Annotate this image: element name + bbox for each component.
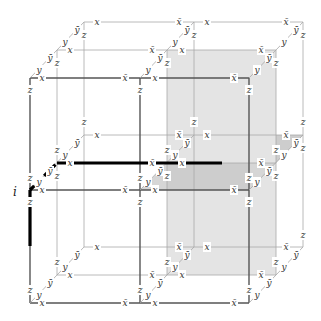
vertex-label-y: ȳ: [73, 250, 80, 260]
vertex-label-x: x: [204, 17, 209, 27]
vertex-label-x: x̄: [258, 158, 263, 168]
vertex-label-z: z: [273, 257, 279, 267]
vertex-label-z: z: [191, 30, 197, 40]
vertex-label-z: z: [27, 285, 33, 295]
vertex-label-z: z: [137, 85, 143, 95]
vertex-label-z: z: [54, 171, 60, 181]
vertex-label-y: y: [253, 177, 260, 187]
cube-lattice-svg: xx̄xx̄xx̄xx̄xx̄xx̄xx̄xx̄xx̄xx̄xx̄xx̄xx̄x…: [0, 0, 321, 321]
vertex-label-x: x̄: [283, 130, 288, 140]
vertex-label-x: x: [179, 270, 184, 280]
vertex-label-x: x̄: [258, 270, 263, 280]
vertex-label-x: x̄: [122, 73, 127, 83]
vertex-label-z: z: [300, 117, 306, 127]
vertex-label-x: x: [152, 73, 157, 83]
vertex-label-x: x̄: [231, 298, 236, 308]
vertex-label-y: ȳ: [73, 25, 80, 35]
vertex-label-z: z: [81, 117, 87, 127]
vertex-label-y: y: [280, 37, 287, 47]
vertex-label-x: x: [94, 130, 99, 140]
vertex-label-z: z: [164, 58, 170, 68]
vertex-label-z: z: [54, 145, 60, 155]
vertex-label-x: x̄: [283, 242, 288, 252]
vertex-label-z: z: [273, 171, 279, 181]
vertex-label-z: z: [246, 285, 252, 295]
vertex-label-x: x̄: [258, 45, 263, 55]
vertex-label-y: y: [35, 177, 42, 187]
vertex-label-y: y: [280, 262, 287, 272]
vertex-label-x: x̄: [283, 17, 288, 27]
vertex-label-y: ȳ: [46, 53, 53, 63]
vertex-label-z: z: [54, 58, 60, 68]
vertex-label-z: z: [273, 58, 279, 68]
lattice-diagram: xx̄xx̄xx̄xx̄xx̄xx̄xx̄xx̄xx̄xx̄xx̄xx̄xx̄x…: [0, 0, 321, 321]
vertex-label-z: z: [27, 85, 33, 95]
vertex-label-y: ȳ: [156, 53, 163, 63]
vertex-label-x: x̄: [149, 45, 154, 55]
i-label: i: [13, 185, 17, 199]
vertex-label-x: x̄: [231, 185, 236, 195]
vertex-label-y: y: [61, 262, 68, 272]
vertex-label-z: z: [164, 145, 170, 155]
vertex-label-y: y: [61, 37, 68, 47]
vertex-label-y: ȳ: [265, 278, 272, 288]
vertex-label-x: x: [204, 242, 209, 252]
vertex-label-x: x: [179, 45, 184, 55]
vertex-label-y: ȳ: [292, 25, 299, 35]
vertex-label-x: x̄: [149, 270, 154, 280]
vertex-label-y: ȳ: [46, 166, 53, 176]
vertex-label-y: y: [144, 177, 151, 187]
vertex-label-y: ȳ: [156, 166, 163, 176]
vertex-label-z: z: [81, 30, 87, 40]
vertex-label-y: y: [35, 65, 42, 75]
vertex-label-x: x̄: [176, 130, 181, 140]
vertex-label-z: z: [273, 145, 279, 155]
vertex-label-z: z: [137, 197, 143, 207]
vertex-label-y: y: [280, 150, 287, 160]
vertex-label-z: z: [300, 230, 306, 240]
vertex-label-x: x: [94, 242, 99, 252]
vertex-label-y: ȳ: [292, 138, 299, 148]
vertex-label-y: y: [61, 150, 68, 160]
vertex-label-y: ȳ: [156, 278, 163, 288]
vertex-label-y: y: [253, 65, 260, 75]
vertex-label-y: ȳ: [183, 138, 190, 148]
vertex-label-y: y: [171, 150, 178, 160]
vertex-label-x: x: [152, 298, 157, 308]
vertex-label-y: y: [171, 37, 178, 47]
vertex-label-y: y: [144, 290, 151, 300]
vertex-label-z: z: [300, 30, 306, 40]
vertex-label-y: y: [144, 65, 151, 75]
vertex-label-z: z: [191, 117, 197, 127]
vertex-label-z: z: [246, 173, 252, 183]
vertex-label-y: ȳ: [46, 278, 53, 288]
vertex-label-z: z: [300, 143, 306, 153]
vertex-label-x: x̄: [176, 17, 181, 27]
vertex-label-x: x̄: [122, 298, 127, 308]
vertex-label-z: z: [137, 285, 143, 295]
vertex-label-x: x: [94, 17, 99, 27]
vertex-label-y: ȳ: [265, 166, 272, 176]
vertex-label-x: x: [204, 130, 209, 140]
vertex-label-z: z: [27, 173, 33, 183]
vertex-label-z: z: [54, 257, 60, 267]
vertex-label-y: ȳ: [265, 53, 272, 63]
vertex-label-x: x̄: [122, 185, 127, 195]
vertex-label-x: x̄: [176, 242, 181, 252]
vertex-label-y: ȳ: [73, 138, 80, 148]
vertex-label-y: ȳ: [183, 25, 190, 35]
vertex-label-z: z: [137, 173, 143, 183]
vertex-label-x: x̄: [149, 158, 154, 168]
vertex-label-x: x: [152, 185, 157, 195]
vertex-label-z: z: [164, 171, 170, 181]
vertex-label-y: ȳ: [183, 250, 190, 260]
vertex-label-z: z: [246, 85, 252, 95]
vertex-label-y: y: [253, 290, 260, 300]
vertex-label-y: ȳ: [292, 250, 299, 260]
vertex-label-z: z: [246, 197, 252, 207]
vertex-label-z: z: [164, 257, 170, 267]
vertex-label-y: y: [35, 290, 42, 300]
vertex-label-x: x: [179, 158, 184, 168]
vertex-label-y: y: [171, 262, 178, 272]
vertex-label-z: z: [27, 197, 33, 207]
